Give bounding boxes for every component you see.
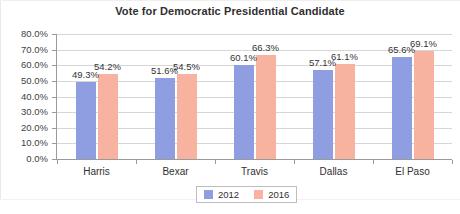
x-axis-tick	[452, 160, 453, 164]
bar-chart: Vote for Democratic Presidential Candida…	[0, 0, 460, 214]
bar-harris-2016	[98, 74, 118, 159]
legend-label: 2016	[268, 190, 289, 200]
y-axis-tick-label: 30.0%	[0, 107, 48, 117]
bar-value-label: 60.1%	[226, 53, 262, 63]
x-axis-category-label: El Paso	[373, 166, 452, 177]
bar-value-label: 61.1%	[327, 52, 363, 62]
y-axis-tick-label: 50.0%	[0, 76, 48, 86]
x-axis-line	[56, 159, 452, 160]
gridline	[57, 34, 452, 35]
chart-title: Vote for Democratic Presidential Candida…	[0, 5, 460, 17]
x-axis-tick	[136, 160, 137, 164]
bar-el-paso-2016	[414, 51, 434, 159]
bar-harris-2012	[76, 82, 96, 159]
legend-swatch-icon	[204, 190, 213, 199]
y-axis-tick-label: 80.0%	[0, 29, 48, 39]
bar-el-paso-2012	[392, 57, 412, 160]
y-axis-tick-label: 60.0%	[0, 60, 48, 70]
bar-dallas-2016	[335, 64, 355, 159]
legend-label: 2012	[218, 190, 239, 200]
bar-travis-2012	[234, 65, 254, 159]
bar-bexar-2012	[155, 78, 175, 159]
x-axis-category-label: Bexar	[136, 166, 215, 177]
x-axis-tick	[373, 160, 374, 164]
bar-value-label: 69.1%	[406, 39, 442, 49]
y-axis-tick-label: 40.0%	[0, 92, 48, 102]
y-axis-tick-label: 0.0%	[0, 154, 48, 164]
frame-edge-top	[0, 0, 460, 1]
x-axis-tick	[215, 160, 216, 164]
bar-value-label: 66.3%	[248, 43, 284, 53]
bar-travis-2016	[256, 55, 276, 159]
bar-value-label: 54.5%	[169, 62, 205, 72]
x-axis-category-label: Travis	[215, 166, 294, 177]
x-axis-category-label: Dallas	[294, 166, 373, 177]
y-axis-tick-label: 70.0%	[0, 45, 48, 55]
y-axis-tick-label: 10.0%	[0, 138, 48, 148]
legend-swatch-icon	[254, 190, 263, 199]
x-axis-tick	[294, 160, 295, 164]
x-axis-tick	[57, 160, 58, 164]
bar-dallas-2012	[313, 70, 333, 159]
legend-item-2016[interactable]: 2016	[254, 190, 289, 200]
chart-legend: 20122016	[196, 186, 297, 203]
bar-bexar-2016	[177, 74, 197, 159]
legend-item-2012[interactable]: 2012	[204, 190, 239, 200]
bar-value-label: 54.2%	[90, 62, 126, 72]
x-axis-category-label: Harris	[57, 166, 136, 177]
y-axis-tick-label: 20.0%	[0, 123, 48, 133]
